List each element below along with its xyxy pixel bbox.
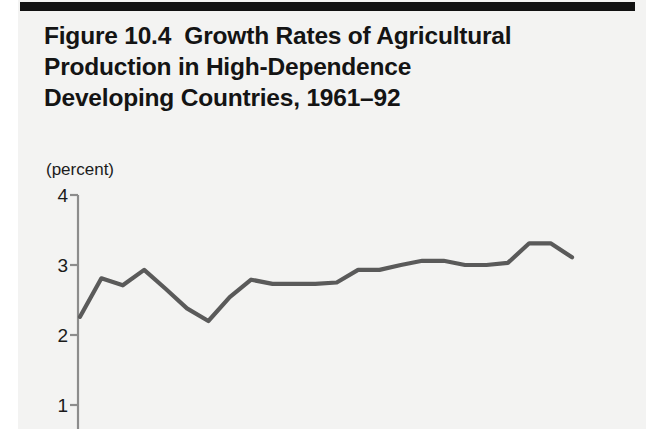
figure-page: Figure 10.4 Growth Rates of Agricultural… — [0, 0, 646, 429]
line-chart-plot — [0, 0, 646, 429]
data-series-line — [80, 243, 572, 321]
y-axis-group — [70, 195, 78, 429]
